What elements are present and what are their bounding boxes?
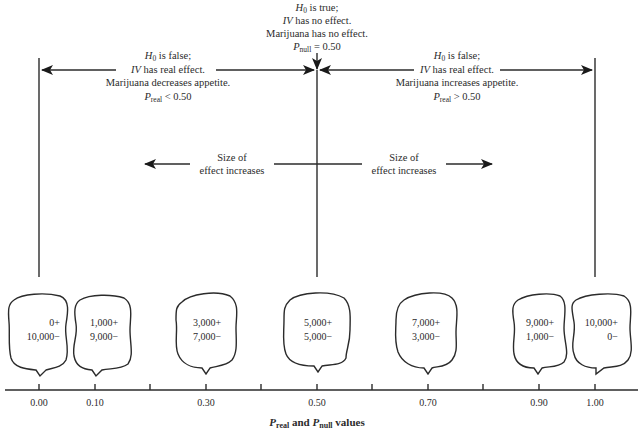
effect-size-right-label: Size of effect increases — [372, 152, 437, 176]
svg-text:H0 is false;: H0 is false; — [433, 50, 480, 63]
svg-text:H0 is false;: H0 is false; — [144, 50, 191, 63]
svg-text:Marijuana has no effect.: Marijuana has no effect. — [266, 28, 368, 39]
svg-text:Size of: Size of — [389, 152, 419, 163]
svg-text:Pnull = 0.50: Pnull = 0.50 — [292, 41, 341, 54]
tick-label: 1.00 — [586, 397, 604, 408]
svg-text:0+: 0+ — [49, 317, 60, 328]
x-axis: 0.00 0.10 0.30 0.50 0.70 0.90 1.00 Preal… — [5, 384, 638, 430]
sample-bubble: 3,000+ 7,000− — [176, 293, 237, 374]
tick-label: 0.30 — [197, 397, 215, 408]
svg-text:3,000+: 3,000+ — [193, 317, 222, 328]
svg-text:IV has no effect.: IV has no effect. — [282, 15, 352, 26]
tick-label: 0.90 — [530, 397, 548, 408]
svg-text:5,000+: 5,000+ — [304, 317, 333, 328]
svg-text:1,000+: 1,000+ — [90, 317, 119, 328]
tick-label: 0.50 — [308, 397, 326, 408]
svg-text:Marijuana decreases appetite.: Marijuana decreases appetite. — [106, 77, 230, 88]
left-annotation: H0 is false; IV has real effect. Marijua… — [106, 50, 230, 104]
svg-text:3,000−: 3,000− — [412, 331, 441, 342]
svg-text:Size of: Size of — [217, 152, 247, 163]
svg-text:7,000−: 7,000− — [193, 331, 222, 342]
center-annotation: H0 is true; IV has no effect. Marijuana … — [266, 2, 368, 54]
svg-text:H0 is true;: H0 is true; — [295, 2, 339, 15]
svg-text:9,000−: 9,000− — [90, 331, 119, 342]
svg-text:effect increases: effect increases — [372, 165, 437, 176]
effect-size-left-label: Size of effect increases — [200, 152, 265, 176]
svg-text:Marijuana increases appetite.: Marijuana increases appetite. — [396, 77, 519, 88]
sample-bubble: 0+ 10,000− — [9, 294, 68, 376]
svg-text:1,000−: 1,000− — [526, 331, 555, 342]
svg-text:Preal < 0.50: Preal < 0.50 — [143, 91, 191, 104]
svg-text:9,000+: 9,000+ — [526, 317, 555, 328]
right-annotation: H0 is false; IV has real effect. Marijua… — [396, 50, 519, 104]
svg-text:10,000−: 10,000− — [27, 331, 61, 342]
tick-label: 0.70 — [419, 397, 437, 408]
svg-text:5,000−: 5,000− — [304, 331, 333, 342]
svg-text:effect increases: effect increases — [200, 165, 265, 176]
diagram-canvas: H0 is true; IV has no effect. Marijuana … — [0, 0, 642, 438]
sample-bubble: 5,000+ 5,000− — [284, 293, 351, 372]
sample-bubble: 1,000+ 9,000− — [74, 295, 132, 376]
svg-text:Preal > 0.50: Preal > 0.50 — [432, 91, 480, 104]
svg-text:IV has real effect.: IV has real effect. — [130, 64, 205, 75]
svg-text:IV has real effect.: IV has real effect. — [419, 64, 494, 75]
axis-title: Preal and Pnull values — [269, 416, 365, 430]
sample-bubble: 10,000+ 0− — [572, 294, 631, 374]
sample-bubble: 7,000+ 3,000− — [396, 293, 458, 374]
sample-bubble: 9,000+ 1,000− — [513, 294, 567, 374]
svg-text:7,000+: 7,000+ — [412, 317, 441, 328]
hypothesis-diagram: H0 is true; IV has no effect. Marijuana … — [0, 0, 642, 438]
svg-text:10,000+: 10,000+ — [585, 317, 619, 328]
svg-text:0−: 0− — [607, 331, 618, 342]
tick-label: 0.10 — [86, 397, 104, 408]
tick-label: 0.00 — [30, 397, 48, 408]
